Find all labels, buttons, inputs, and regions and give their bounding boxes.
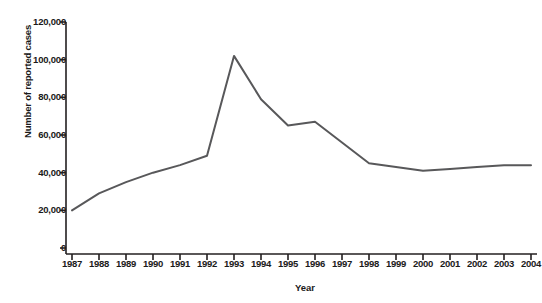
data-series-line — [72, 56, 531, 210]
x-axis-title: Year — [0, 282, 542, 293]
line-chart: Number of reported cases 020,00040,00060… — [0, 0, 542, 303]
x-axis-tick-label: 2004 — [511, 258, 542, 269]
x-axis-title-text: Year — [295, 282, 315, 293]
